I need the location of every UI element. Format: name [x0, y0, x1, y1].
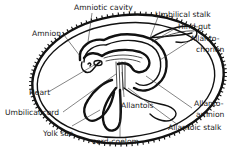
label-allanto-chorion-line1: Allanto-	[190, 34, 220, 43]
leader-heart	[50, 64, 96, 91]
leader-allanto-chorion	[160, 40, 191, 60]
label-hind-gut: Hind-gut	[178, 22, 211, 31]
leader-umbilical-cord	[63, 74, 116, 112]
label-allanto-amnion-line2: amnion	[196, 110, 225, 119]
label-allantois: Allantois	[121, 101, 154, 110]
leader-amniotic-cavity	[88, 13, 92, 42]
label-heart: Heart	[29, 88, 50, 97]
fetal-membranes-diagram: Amniotic cavity Amnion Umbilical stalk H…	[0, 0, 236, 150]
label-allanto-amnion-line1: Allanto-	[194, 99, 224, 108]
leader-allantois	[122, 72, 124, 97]
label-amniotic-cavity: Amniotic cavity	[74, 3, 133, 12]
yolk-stalk-loop	[103, 88, 121, 131]
label-yolk-sac: Yolk sac	[42, 129, 73, 138]
leader-yolk-sac	[72, 110, 100, 126]
label-umbilical-cord: Umbilical cord	[5, 108, 59, 117]
label-amnion: Amnion	[32, 29, 61, 38]
label-cord-coelom: cord-coelom	[92, 137, 139, 146]
label-allantoic-stalk: Allantoic stalk	[168, 123, 222, 132]
umbilical-cord-bundle	[116, 62, 125, 90]
gut-lines	[104, 55, 142, 62]
label-allanto-chorion-line2: chorion	[196, 45, 225, 54]
label-umbilical-stalk: Umbilical stalk	[155, 10, 211, 19]
